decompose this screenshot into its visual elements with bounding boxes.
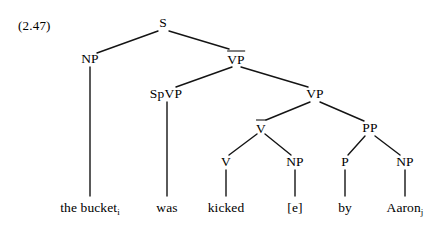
leaf-index-subscript: j	[421, 207, 424, 217]
leaf-text: kicked	[208, 200, 245, 215]
tree-node-np1: NP	[81, 52, 99, 66]
tree-leaf-was: was	[156, 201, 177, 215]
tree-node-spvp: SpVP	[150, 87, 182, 101]
tree-leaf-by: by	[338, 201, 352, 215]
leaf-text: the bucket	[60, 200, 117, 215]
tree-node-pp: PP	[362, 121, 377, 135]
tree-leaf-e: [e]	[287, 201, 302, 215]
leaf-index-subscript: i	[117, 207, 120, 217]
tree-node-v: V	[221, 155, 231, 169]
tree-node-layer: (2.47) SNPVPSpVPVPVPPVNPPNP the bucketiw…	[0, 0, 437, 231]
tree-node-vbar: V	[256, 120, 266, 135]
tree-node-np3: NP	[396, 155, 414, 169]
syntax-tree-figure: (2.47) SNPVPSpVPVPVPPVNPPNP the bucketiw…	[0, 0, 437, 231]
tree-node-vpbar: VP	[227, 51, 245, 66]
example-number-label: (2.47)	[18, 18, 51, 34]
tree-leaf-kicked: kicked	[208, 201, 245, 215]
leaf-text: was	[156, 200, 177, 215]
tree-node-np2: NP	[286, 155, 304, 169]
tree-leaf-the-bucket: the bucketi	[60, 201, 119, 215]
tree-leaf-aaron: Aaronj	[387, 201, 424, 215]
tree-node-s: S	[159, 16, 167, 30]
leaf-text: by	[338, 200, 352, 215]
tree-node-vp: VP	[306, 87, 324, 101]
tree-node-p: P	[341, 155, 349, 169]
leaf-text: Aaron	[387, 200, 421, 215]
leaf-text: [e]	[287, 200, 302, 215]
